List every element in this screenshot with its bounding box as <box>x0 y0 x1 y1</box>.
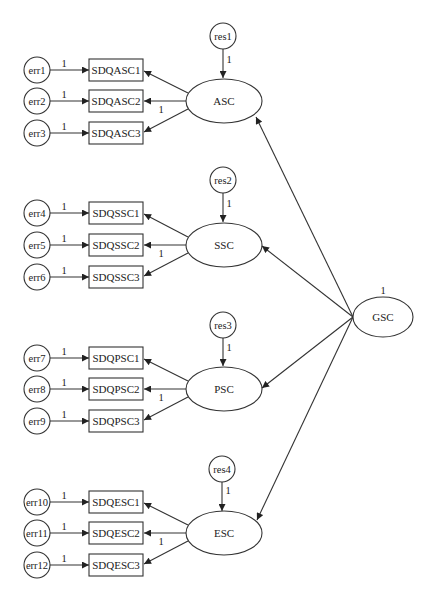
error-path-label: 1 <box>61 265 66 276</box>
fixed-loading-label: 1 <box>158 536 163 547</box>
second-order-factor-label: GSC <box>372 311 393 323</box>
error-path-label: 1 <box>61 201 66 212</box>
error-path-label: 1 <box>61 89 66 100</box>
indicator-label: SDQESC2 <box>92 527 140 539</box>
error-label: err2 <box>29 96 46 107</box>
loading-path <box>144 109 188 132</box>
error-path-label: 1 <box>61 121 66 132</box>
fixed-loading-label: 1 <box>158 248 163 259</box>
factor-label: PSC <box>214 383 234 395</box>
error-label: err9 <box>29 416 46 427</box>
factor-group-psc: res3 1 PSC 1 SDQPSC1 SDQPSC2 SDQPSC3 err… <box>24 312 262 434</box>
error-label: err12 <box>26 560 48 571</box>
factor-label: ESC <box>214 527 234 539</box>
loading-path <box>144 397 188 420</box>
factor-label: SSC <box>214 239 234 251</box>
error-label: err3 <box>29 128 46 139</box>
error-label: err5 <box>29 240 46 251</box>
residual-label: res3 <box>214 320 232 331</box>
second-order-factor-group: GSC 1 <box>256 117 413 520</box>
path-diagram: res1 1 ASC 1 SDQASC1 SDQASC2 SDQASC3 err… <box>0 0 431 597</box>
loading-path <box>144 359 188 381</box>
structural-path-gsc-esc <box>257 317 353 520</box>
structural-path-gsc-psc <box>262 317 353 388</box>
residual-label: res2 <box>214 175 232 186</box>
loading-path <box>144 71 188 93</box>
indicator-label: SDQSSC1 <box>92 207 139 219</box>
indicator-label: SDQASC3 <box>92 127 141 139</box>
error-path-label: 1 <box>61 346 66 357</box>
error-path-label: 1 <box>61 490 66 501</box>
residual-path-label: 1 <box>225 485 230 496</box>
indicator-label: SDQASC2 <box>92 95 141 107</box>
indicator-label: SDQASC1 <box>92 64 141 76</box>
loading-path <box>144 503 188 525</box>
error-path-label: 1 <box>61 553 66 564</box>
factor-group-esc: res4 1 ESC 1 SDQESC1 SDQESC2 SDQESC3 err… <box>24 456 262 578</box>
structural-path-gsc-ssc <box>262 246 353 317</box>
indicator-label: SDQPSC3 <box>92 415 140 427</box>
indicator-label: SDQESC3 <box>92 559 140 571</box>
factor-group-ssc: res2 1 SSC 1 SDQSSC1 SDQSSC2 SDQSSC3 err… <box>24 167 262 290</box>
residual-label: res1 <box>214 31 232 42</box>
error-label: err4 <box>29 208 47 219</box>
loading-path <box>144 214 188 237</box>
residual-label: res4 <box>213 464 231 475</box>
structural-path-gsc-asc <box>256 117 353 317</box>
factor-label: ASC <box>213 95 234 107</box>
error-path-label: 1 <box>61 233 66 244</box>
residual-path-label: 1 <box>226 198 231 209</box>
indicator-label: SDQESC1 <box>92 496 140 508</box>
error-label: err8 <box>29 384 46 395</box>
indicator-label: SDQPSC1 <box>92 352 139 364</box>
error-label: err11 <box>26 528 48 539</box>
error-label: err1 <box>29 65 46 76</box>
error-label: err10 <box>26 497 48 508</box>
error-path-label: 1 <box>61 377 66 388</box>
error-path-label: 1 <box>61 58 66 69</box>
indicator-label: SDQSSC2 <box>92 239 139 251</box>
error-label: err6 <box>29 272 46 283</box>
residual-path-label: 1 <box>226 342 231 353</box>
loading-path <box>144 541 188 564</box>
variance-label: 1 <box>380 285 385 296</box>
fixed-loading-label: 1 <box>158 104 163 115</box>
fixed-loading-label: 1 <box>158 392 163 403</box>
indicator-label: SDQPSC2 <box>92 383 139 395</box>
residual-path-label: 1 <box>226 54 231 65</box>
error-path-label: 1 <box>61 409 66 420</box>
loading-path <box>144 253 188 276</box>
factor-group-asc: res1 1 ASC 1 SDQASC1 SDQASC2 SDQASC3 err… <box>24 23 262 146</box>
error-label: err7 <box>29 353 46 364</box>
error-path-label: 1 <box>61 521 66 532</box>
indicator-label: SDQSSC3 <box>92 271 140 283</box>
